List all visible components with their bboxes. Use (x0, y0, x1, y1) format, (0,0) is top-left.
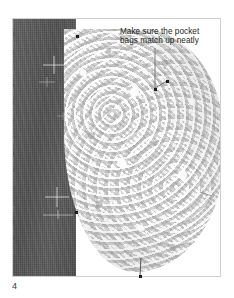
annotation-callout: Make sure the pocket bags match up neatl… (120, 27, 212, 46)
figure-number: 4 (12, 281, 17, 292)
tailor-tack-mark (45, 187, 69, 207)
pocket-bag-fabric (64, 29, 221, 272)
annotation-line-1: Make sure the pocket (120, 27, 212, 36)
tailor-tack-mark (39, 77, 55, 87)
pocket-bag-shading (64, 29, 221, 272)
tailor-tack-mark (43, 210, 73, 219)
annotation-line-2: bags match up neatly (120, 36, 212, 45)
tailor-tack-mark (43, 56, 65, 74)
illustration-frame (12, 18, 221, 277)
sewing-illustration-figure: Make sure the pocket bags match up neatl… (0, 0, 234, 298)
